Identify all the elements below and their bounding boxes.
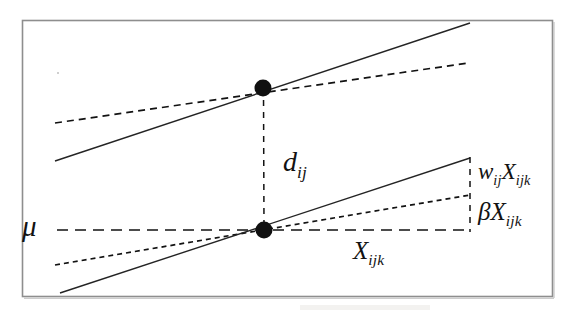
label-w-base: w — [478, 159, 493, 184]
label-x-base: X — [353, 237, 368, 264]
label-beta-x-ijk: βXijk — [478, 199, 522, 229]
lower-anchor-point — [256, 222, 273, 239]
upper-anchor-point — [255, 80, 272, 97]
label-d-ij: dij — [283, 148, 307, 181]
label-w-subscript: ij — [493, 172, 501, 188]
label-beta-x-subscript: ijk — [506, 212, 522, 229]
label-w-x-base: X — [502, 159, 516, 184]
label-w-x-subscript: ijk — [516, 172, 531, 188]
label-w-ij-x-ijk: wijXijk — [478, 160, 531, 187]
label-x-ijk: Xijk — [353, 238, 384, 268]
label-d-ij-subscript: ij — [297, 163, 307, 182]
label-mu: μ — [22, 212, 37, 241]
figure-root: μ dij wijXijk βXijk Xijk — [0, 0, 571, 315]
label-beta-base: β — [478, 198, 490, 225]
label-d-ij-base: d — [283, 146, 297, 177]
scan-smudge — [300, 305, 430, 310]
label-beta-x-base: X — [490, 198, 505, 225]
label-mu-base: μ — [22, 210, 37, 242]
scan-speck-upper-left — [57, 72, 59, 74]
label-x-subscript: ijk — [368, 251, 384, 268]
